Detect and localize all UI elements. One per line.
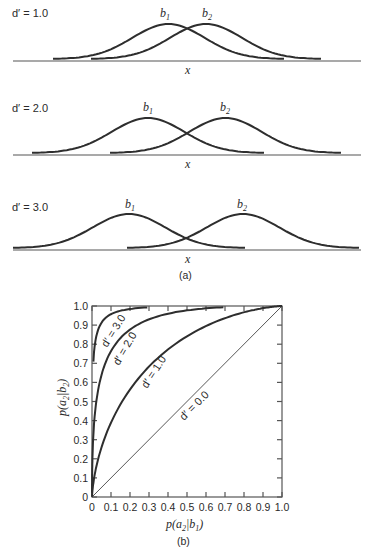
b2-label: b2: [237, 197, 247, 213]
svg-text:0.8: 0.8: [237, 501, 252, 513]
x-axis-label: x: [184, 252, 191, 266]
dprime-label: d′ = 2.0: [12, 102, 48, 114]
y-ticks: 00.10.20.30.40.50.60.70.80.91.0: [73, 300, 282, 503]
panel-a-caption: (a): [179, 269, 192, 281]
distribution-row-2: d′ = 2.0 b1 b2 x: [12, 100, 361, 171]
b1-label: b1: [160, 6, 170, 22]
svg-text:0.4: 0.4: [161, 501, 176, 513]
b1-curve: [13, 214, 245, 248]
svg-text:0.3: 0.3: [142, 501, 157, 513]
b2-label: b2: [202, 6, 212, 22]
svg-text:1.0: 1.0: [275, 501, 290, 513]
panel-a: d′ = 1.0 b1 b2 x d′ = 2.0 b1 b2 x d′ = 3…: [12, 6, 361, 281]
svg-text:0.1: 0.1: [73, 472, 88, 484]
svg-text:0.5: 0.5: [180, 501, 195, 513]
svg-text:0.2: 0.2: [123, 501, 138, 513]
svg-text:0.3: 0.3: [73, 434, 88, 446]
svg-text:0: 0: [89, 501, 95, 513]
dprime-label: d′ = 1.0: [12, 7, 48, 19]
svg-text:0.8: 0.8: [73, 338, 88, 350]
b2-curve: [127, 214, 359, 248]
distribution-row-3: d′ = 3.0 b1 b2 x: [12, 197, 361, 266]
svg-text:0.5: 0.5: [73, 396, 88, 408]
figure: d′ = 1.0 b1 b2 x d′ = 2.0 b1 b2 x d′ = 3…: [0, 0, 367, 551]
curve-label-d0: d′ = 0.0: [177, 388, 211, 422]
svg-text:0.9: 0.9: [256, 501, 271, 513]
b2-label: b2: [220, 100, 230, 116]
x-axis-label: x: [184, 157, 191, 171]
distribution-row-1: d′ = 1.0 b1 b2 x: [12, 6, 361, 77]
x-axis-label: p(a2|b1): [165, 517, 203, 533]
dprime-label: d′ = 3.0: [12, 201, 48, 213]
b2-curve: [110, 118, 341, 153]
b1-curve: [32, 118, 264, 153]
svg-text:0: 0: [82, 491, 88, 503]
y-axis-label: p(a2|b2): [55, 379, 71, 417]
panel-b-caption: (b): [177, 535, 190, 547]
roc-curve-d0: [92, 306, 282, 497]
svg-text:0.1: 0.1: [104, 501, 119, 513]
svg-text:0.2: 0.2: [73, 453, 88, 465]
svg-text:0.4: 0.4: [73, 415, 88, 427]
x-axis-label: x: [184, 63, 191, 77]
svg-text:1.0: 1.0: [73, 300, 88, 312]
svg-text:0.9: 0.9: [73, 319, 88, 331]
svg-text:0.6: 0.6: [73, 376, 88, 388]
svg-text:0.7: 0.7: [218, 501, 233, 513]
b1-label: b1: [143, 100, 153, 116]
panel-b: 00.10.20.30.40.50.60.70.80.91.0 00.10.20…: [55, 300, 289, 547]
svg-text:0.6: 0.6: [199, 501, 214, 513]
svg-text:0.7: 0.7: [73, 357, 88, 369]
b1-label: b1: [125, 197, 135, 213]
